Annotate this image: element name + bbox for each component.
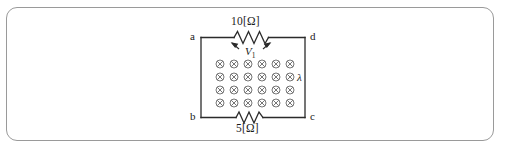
voltage-label-text: V — [245, 45, 252, 57]
field-symbol — [258, 60, 266, 68]
node-label-b: b — [190, 111, 196, 122]
node-label-c: c — [310, 111, 315, 122]
field-symbol — [216, 73, 224, 81]
voltage-label-v1: V1 — [245, 46, 255, 60]
node-label-d: d — [310, 31, 316, 42]
field-symbol — [230, 60, 238, 68]
field-symbol — [244, 86, 252, 94]
voltage-arrow-right — [263, 43, 270, 49]
node-label-a: a — [190, 31, 195, 42]
field-symbol — [272, 60, 280, 68]
field-symbol — [286, 99, 294, 107]
field-symbol — [272, 99, 280, 107]
field-symbol — [286, 73, 294, 81]
field-symbol — [230, 99, 238, 107]
field-symbol — [258, 73, 266, 81]
field-symbol — [216, 86, 224, 94]
bottom-resistor-label: 5[Ω] — [236, 123, 259, 135]
field-symbol — [272, 86, 280, 94]
field-symbol — [272, 73, 280, 81]
lambda-annotation-label: λ — [297, 72, 302, 83]
resistor-top-zigzag — [234, 32, 269, 44]
voltage-label-subscript: 1 — [252, 51, 256, 60]
field-symbol — [286, 60, 294, 68]
field-symbol — [216, 60, 224, 68]
voltage-arrow-left — [232, 43, 239, 49]
top-resistor-label: 10[Ω] — [231, 16, 260, 28]
field-symbol — [258, 99, 266, 107]
field-symbol — [230, 73, 238, 81]
field-symbol — [244, 99, 252, 107]
field-symbol — [244, 73, 252, 81]
field-symbol — [286, 86, 294, 94]
field-symbol — [230, 86, 238, 94]
field-symbol — [244, 60, 252, 68]
field-symbol — [216, 99, 224, 107]
field-symbol — [258, 86, 266, 94]
field-symbol-grid — [216, 60, 294, 107]
figure-root: 10[Ω] 5[Ω] a d b c V1 λ — [0, 0, 505, 156]
